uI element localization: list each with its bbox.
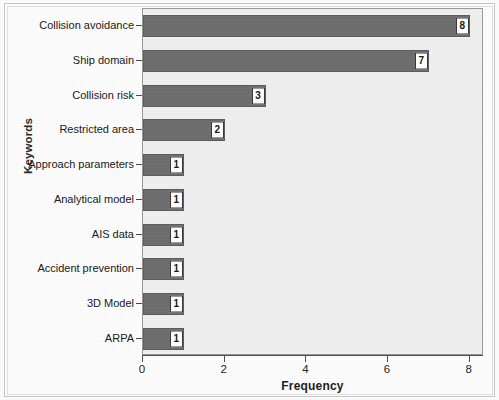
bar-value-label: 2 bbox=[211, 122, 224, 139]
y-axis-label: Ship domain bbox=[4, 54, 134, 66]
y-axis-label: Collision risk bbox=[4, 89, 134, 101]
x-axis-tick bbox=[305, 356, 306, 362]
bar-row: 1 bbox=[143, 328, 484, 350]
x-axis-tick-label: 0 bbox=[130, 363, 154, 375]
bar-row: 8 bbox=[143, 15, 484, 37]
x-axis-tick-label: 8 bbox=[457, 363, 481, 375]
y-axis-label: AIS data bbox=[4, 228, 134, 240]
x-axis-tick-label: 2 bbox=[212, 363, 236, 375]
bar-chart-figure: Keywords Collision avoidanceShip domainC… bbox=[0, 0, 499, 400]
bars-container: 8732111111 bbox=[143, 9, 482, 354]
x-axis-tick-label: 4 bbox=[293, 363, 317, 375]
y-axis-label: Approach parameters bbox=[4, 158, 134, 170]
bar-value-label: 3 bbox=[252, 87, 265, 104]
x-axis-tick-label: 6 bbox=[375, 363, 399, 375]
bar-row: 2 bbox=[143, 119, 484, 141]
plot-area: 8732111111 bbox=[142, 8, 483, 355]
y-axis-title: Keywords bbox=[22, 101, 34, 191]
bar-value-label: 1 bbox=[170, 261, 183, 278]
bar-row: 1 bbox=[143, 293, 484, 315]
x-axis-tick bbox=[387, 356, 388, 362]
bar-row: 3 bbox=[143, 85, 484, 107]
y-axis-label: ARPA bbox=[4, 332, 134, 344]
x-axis-tick bbox=[224, 356, 225, 362]
y-axis-label: 3D Model bbox=[4, 297, 134, 309]
bar-value-label: 1 bbox=[170, 191, 183, 208]
x-axis-tick bbox=[142, 356, 143, 362]
bar-value-label: 8 bbox=[456, 18, 469, 35]
bar-row: 1 bbox=[143, 258, 484, 280]
bar-value-label: 1 bbox=[170, 330, 183, 347]
bar-value-label: 1 bbox=[170, 157, 183, 174]
bar-row: 1 bbox=[143, 154, 484, 176]
bar-row: 7 bbox=[143, 50, 484, 72]
x-axis-tick bbox=[469, 356, 470, 362]
bar bbox=[143, 50, 429, 72]
bar-row: 1 bbox=[143, 224, 484, 246]
y-axis-label: Restricted area bbox=[4, 123, 134, 135]
x-axis-line bbox=[142, 355, 483, 356]
bar bbox=[143, 85, 266, 107]
y-axis-label: Analytical model bbox=[4, 193, 134, 205]
bar-value-label: 7 bbox=[415, 53, 428, 70]
bar bbox=[143, 15, 470, 37]
y-axis-label: Collision avoidance bbox=[4, 19, 134, 31]
bar-value-label: 1 bbox=[170, 295, 183, 312]
y-axis-label: Accident prevention bbox=[4, 262, 134, 274]
x-axis-title: Frequency bbox=[142, 379, 483, 393]
bar-value-label: 1 bbox=[170, 226, 183, 243]
bar-row: 1 bbox=[143, 189, 484, 211]
